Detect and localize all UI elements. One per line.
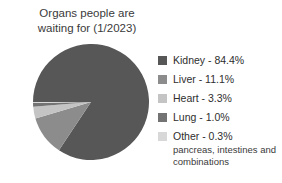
pie-slices [33, 44, 149, 160]
legend-item[interactable]: Heart - 3.3% [158, 92, 282, 105]
pie-chart-figure: Organs people are waiting for (1/2023) K… [0, 0, 282, 183]
legend-swatch-icon [158, 94, 167, 103]
pie-svg [33, 44, 149, 160]
legend-item[interactable]: Other - 0.3%pancreas, intestines and com… [158, 130, 282, 167]
legend-swatch-icon [158, 113, 167, 122]
legend-note: pancreas, intestines and combinations [173, 144, 276, 167]
legend-label: Other - 0.3% [173, 130, 276, 143]
legend-label: Heart - 3.3% [173, 92, 232, 105]
chart-title: Organs people are waiting for (1/2023) [22, 6, 152, 36]
legend-item[interactable]: Lung - 1.0% [158, 111, 282, 124]
legend-swatch-icon [158, 56, 167, 65]
legend-swatch-icon [158, 132, 167, 141]
legend-label: Lung - 1.0% [173, 111, 230, 124]
legend-label: Kidney - 84.4% [173, 54, 244, 67]
legend-item[interactable]: Kidney - 84.4% [158, 54, 282, 67]
legend-label: Liver - 11.1% [173, 73, 234, 86]
chart-legend: Kidney - 84.4%Liver - 11.1%Heart - 3.3%L… [158, 54, 282, 173]
legend-item[interactable]: Liver - 11.1% [158, 73, 282, 86]
pie-graphic [33, 44, 149, 160]
legend-swatch-icon [158, 75, 167, 84]
